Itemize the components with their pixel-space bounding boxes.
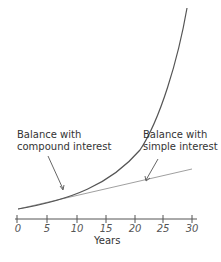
x-tick-label: 10 (71, 223, 84, 234)
x-axis-label: Years (94, 235, 120, 246)
compound-label-line1: Balance with (17, 129, 81, 140)
x-tick-label: 20 (129, 223, 142, 234)
compound-interest-curve (18, 8, 187, 209)
x-tick-label: 25 (157, 223, 170, 234)
x-tick-label: 30 (186, 223, 199, 234)
simple-label-line1: Balance with (143, 129, 207, 140)
x-tick-label: 5 (44, 223, 50, 234)
simple-label-line2: simple interest (143, 141, 218, 152)
x-tick-label: 15 (100, 223, 113, 234)
compound-arrow (48, 156, 63, 189)
compound-label-line2: compound interest (17, 141, 111, 152)
x-tick-label: 0 (15, 223, 21, 234)
simple-interest-line (18, 169, 192, 209)
